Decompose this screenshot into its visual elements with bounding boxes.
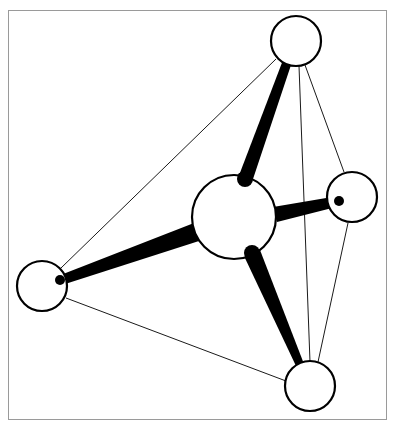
bond-cap-bottom [244, 245, 260, 261]
atom-top [271, 16, 321, 66]
bond-cap-right [334, 196, 344, 206]
atoms [17, 16, 377, 411]
bond-cap-left [55, 275, 65, 285]
edge-top-right [305, 65, 344, 172]
bond-center-top [237, 60, 292, 187]
atom-bottom [285, 361, 335, 411]
atom-left [17, 261, 67, 311]
edge-right-bottom [318, 223, 348, 362]
tetrahedral-molecule-diagram [0, 0, 399, 425]
bond-center-left [55, 223, 199, 285]
bond-cap-top [237, 171, 253, 187]
edge-left-bottom [66, 298, 286, 381]
bond-center-bottom [244, 245, 304, 366]
atom-center [192, 175, 276, 259]
atom-right [327, 172, 377, 222]
